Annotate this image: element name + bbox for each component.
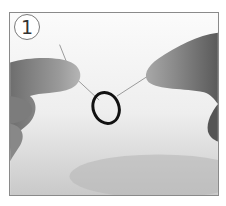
step-number-badge: 1 [14,14,40,40]
illustration-frame [9,12,219,196]
hands-with-ring-illustration [10,13,218,195]
